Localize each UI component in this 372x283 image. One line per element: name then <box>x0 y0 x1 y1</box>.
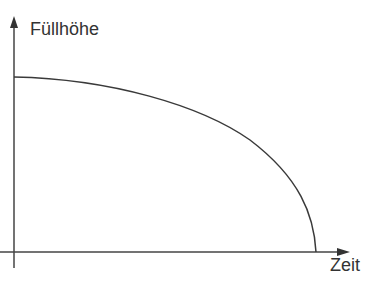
y-axis-label: Füllhöhe <box>30 20 99 38</box>
fill-level-curve <box>14 77 316 252</box>
y-axis-arrow-icon <box>10 16 18 28</box>
chart-canvas <box>0 0 372 283</box>
x-axis-label: Zeit <box>330 256 360 274</box>
